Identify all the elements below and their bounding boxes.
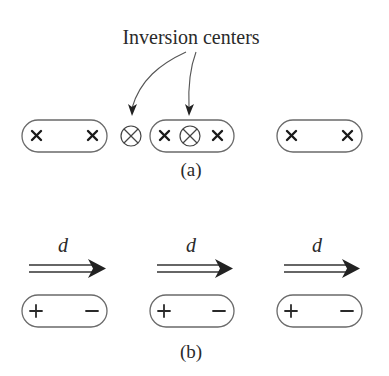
dipole-label: d [58, 234, 69, 256]
arrowhead-icon [185, 104, 194, 116]
dipole-label: d [186, 234, 197, 256]
pointer-arrow-molecule-center [189, 52, 196, 108]
plus-icon [285, 305, 297, 317]
molecule-a-3 [277, 120, 362, 152]
inversion-center-icon [121, 126, 141, 146]
dipole-molecule-b-1: d [22, 234, 107, 327]
cross-icon [32, 131, 41, 140]
dipole-arrow-icon [29, 259, 106, 278]
molecule-a-2 [150, 120, 234, 152]
cross-icon [213, 131, 222, 140]
dipole-molecule-b-2: d [150, 234, 234, 327]
cross-icon [160, 131, 169, 140]
plus-icon [30, 305, 42, 317]
inversion-center-icon [180, 126, 200, 146]
plus-icon [158, 305, 170, 317]
panel-b-caption: (b) [180, 341, 202, 363]
panel-a-caption: (a) [180, 159, 201, 181]
dipole-arrow-icon [284, 259, 360, 278]
dipole-label: d [312, 234, 323, 256]
molecule-a-1 [22, 120, 107, 152]
panel-a: Inversion centers [22, 26, 362, 181]
cross-icon [287, 131, 296, 140]
inversion-centers-title: Inversion centers [122, 26, 259, 48]
dipole-arrow-icon [157, 259, 233, 278]
dipole-molecule-b-3: d [277, 234, 362, 327]
figure-canvas: Inversion centers [0, 0, 389, 376]
pointer-arrow-free-center [132, 52, 186, 108]
panel-b: d d [22, 234, 362, 363]
cross-icon [343, 131, 352, 140]
cross-icon [88, 131, 97, 140]
